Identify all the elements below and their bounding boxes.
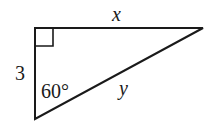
triangle <box>35 28 203 119</box>
label-left-side-3: 3 <box>15 62 25 84</box>
label-angle-60: 60° <box>41 80 69 102</box>
right-angle-marker <box>35 28 53 46</box>
label-top-side-x: x <box>111 3 121 25</box>
label-hypotenuse-y: y <box>117 77 128 100</box>
triangle-diagram: x 3 60° y <box>0 0 215 129</box>
